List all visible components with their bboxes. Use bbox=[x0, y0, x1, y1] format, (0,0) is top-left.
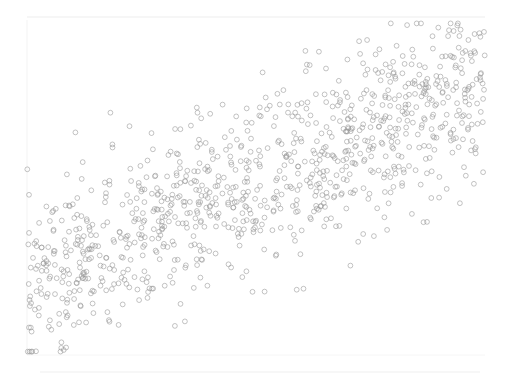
scatter-chart bbox=[0, 0, 510, 389]
chart-background bbox=[0, 0, 510, 389]
